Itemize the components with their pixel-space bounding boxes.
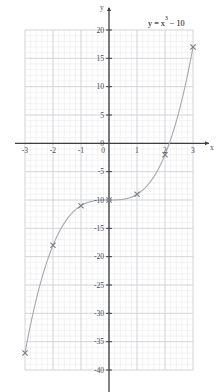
y-tick-label: 10 — [96, 82, 104, 91]
x-axis-label: x — [210, 143, 214, 152]
equation-annotation: y = x3 − 10 — [148, 12, 185, 30]
x-tick-label: 1 — [135, 146, 139, 155]
y-axis-arrow — [107, 7, 111, 11]
y-tick-label: -15 — [94, 224, 104, 233]
graph-figure: 20151050-5-10-15-20-25-30-35-40-3-2-1123… — [0, 0, 216, 392]
equation-tail: − 10 — [168, 19, 185, 28]
y-tick-label: -25 — [94, 281, 104, 290]
x-tick-label: -1 — [78, 146, 85, 155]
y-tick-label: -30 — [94, 309, 104, 318]
origin-label: 0 — [101, 146, 105, 155]
y-tick-label: 20 — [96, 26, 104, 35]
x-tick-label: -3 — [22, 146, 29, 155]
x-tick-label: 2 — [163, 146, 167, 155]
y-tick-label: -35 — [94, 337, 104, 346]
x-tick-label: 3 — [191, 146, 195, 155]
y-tick-label: -20 — [94, 252, 104, 261]
y-tick-label: -40 — [94, 366, 104, 375]
y-tick-label: -5 — [98, 167, 105, 176]
y-tick-label: 15 — [96, 54, 104, 63]
equation-text: y = x — [148, 19, 165, 28]
y-tick-label: 5 — [100, 111, 104, 120]
y-axis-label: y — [100, 3, 104, 12]
x-tick-label: -2 — [50, 146, 57, 155]
x-axis-arrow — [205, 141, 209, 145]
coordinate-plot: 20151050-5-10-15-20-25-30-35-40-3-2-1123… — [0, 0, 216, 392]
y-tick-label: -10 — [94, 196, 104, 205]
